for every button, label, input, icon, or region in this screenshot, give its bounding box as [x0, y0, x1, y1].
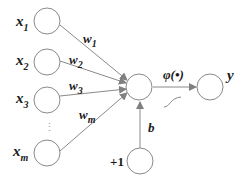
input-node-x3: [34, 87, 60, 113]
bias-node: [127, 148, 153, 174]
bias-weight-label: b: [148, 120, 155, 135]
activation-label: φ(•): [163, 67, 184, 82]
input-node-x2: [34, 49, 60, 75]
input-node-x1: [34, 8, 60, 34]
bias-input-label: +1: [110, 154, 124, 169]
activation-curve-icon: [164, 97, 181, 107]
input-nodes: [34, 8, 60, 166]
weight-label-w2: w2: [69, 52, 83, 70]
input-label-x2: x2: [15, 52, 29, 72]
input-label-x3: x3: [15, 90, 29, 110]
ellipsis: ⋮: [44, 121, 55, 133]
output-node: [197, 74, 223, 100]
neuron-diagram: x1 x2 x3 xm ⋮ w1 w2 w3 wm +1 b φ(•) y: [0, 0, 247, 180]
weight-label-w1: w1: [83, 31, 97, 49]
output-label: y: [225, 67, 234, 83]
input-label-x1: x1: [15, 13, 29, 33]
summation-node: [126, 74, 152, 100]
input-node-xm: [34, 140, 60, 166]
weight-label-w3: w3: [69, 78, 83, 96]
weight-label-wm: wm: [79, 107, 96, 125]
input-label-xm: xm: [12, 143, 29, 163]
weight-labels: w1 w2 w3 wm: [69, 31, 97, 125]
